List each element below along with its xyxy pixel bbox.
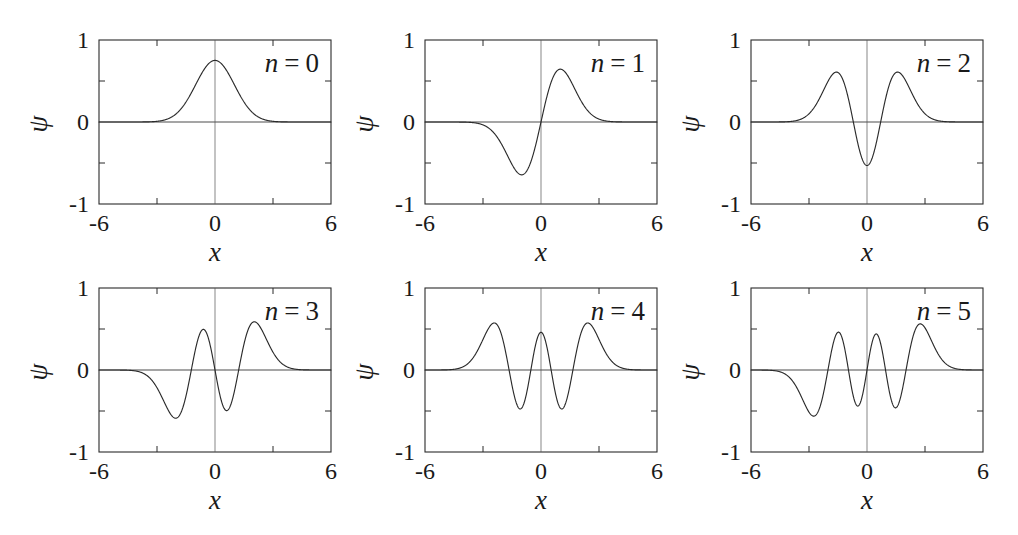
x-tick-label: 6 [977,210,989,236]
y-tick-label: 0 [403,109,415,135]
y-axis-label: ψ [675,362,705,380]
x-tick-label: -6 [741,458,761,484]
panel-label-equals: = [936,48,951,78]
y-tick-label: 1 [403,27,415,53]
panel-label-symbol: n [591,296,605,326]
x-tick-label: -6 [741,210,761,236]
y-tick-label: 1 [729,27,741,53]
panel-n-4: 10-1-606xψn=4 [326,248,666,535]
panel-quantum-number-label: n=2 [917,48,971,78]
x-axis-label: x [208,485,221,515]
y-tick-label: 1 [77,27,89,53]
plot-area-n-0: 10-1-606xψn=0 [0,0,340,287]
x-tick-label: 0 [209,210,221,236]
wavefunction-figure: 10-1-606xψn=010-1-606xψn=110-1-606xψn=21… [0,0,1018,535]
panel-n-2: 10-1-606xψn=2 [652,0,992,287]
y-tick-label: -1 [395,439,415,465]
panel-label-equals: = [284,296,299,326]
x-tick-label: 0 [861,210,873,236]
panel-label-symbol: n [917,296,931,326]
panel-label-symbol: n [265,48,279,78]
panel-label-equals: = [610,296,625,326]
plot-area-n-4: 10-1-606xψn=4 [326,248,666,535]
panel-label-value: 0 [306,48,320,78]
y-tick-label: 1 [729,275,741,301]
panel-quantum-number-label: n=3 [265,296,319,326]
y-tick-label: 0 [729,109,741,135]
panel-label-equals: = [936,296,951,326]
x-tick-label: 0 [535,458,547,484]
plot-area-n-3: 10-1-606xψn=3 [0,248,340,535]
y-tick-label: -1 [69,439,89,465]
panel-n-1: 10-1-606xψn=1 [326,0,666,287]
panel-n-5: 10-1-606xψn=5 [652,248,992,535]
y-axis-label: ψ [349,114,379,132]
y-tick-label: 0 [77,109,89,135]
y-axis-label: ψ [675,114,705,132]
plot-area-n-1: 10-1-606xψn=1 [326,0,666,287]
panel-n-3: 10-1-606xψn=3 [0,248,340,535]
x-tick-label: -6 [415,458,435,484]
panel-label-value: 1 [632,48,646,78]
y-tick-label: 0 [77,357,89,383]
panel-label-equals: = [284,48,299,78]
y-tick-label: -1 [721,439,741,465]
panel-quantum-number-label: n=1 [591,48,645,78]
y-tick-label: -1 [69,191,89,217]
panel-quantum-number-label: n=0 [265,48,319,78]
y-tick-label: 0 [403,357,415,383]
x-tick-label: -6 [89,210,109,236]
panel-label-value: 3 [306,296,320,326]
y-tick-label: -1 [395,191,415,217]
y-tick-label: 0 [729,357,741,383]
y-axis-label: ψ [349,362,379,380]
panel-label-symbol: n [265,296,279,326]
panel-n-0: 10-1-606xψn=0 [0,0,340,287]
y-tick-label: 1 [77,275,89,301]
x-tick-label: 0 [209,458,221,484]
y-axis-label: ψ [23,362,53,380]
panel-label-value: 2 [958,48,972,78]
x-tick-label: 6 [977,458,989,484]
x-axis-label: x [860,485,873,515]
y-axis-label: ψ [23,114,53,132]
panel-label-symbol: n [917,48,931,78]
panel-label-symbol: n [591,48,605,78]
panel-label-value: 4 [632,296,646,326]
y-tick-label: -1 [721,191,741,217]
panel-quantum-number-label: n=5 [917,296,971,326]
y-tick-label: 1 [403,275,415,301]
x-tick-label: -6 [415,210,435,236]
panel-label-equals: = [610,48,625,78]
plot-area-n-5: 10-1-606xψn=5 [652,248,992,535]
x-tick-label: 0 [535,210,547,236]
plot-area-n-2: 10-1-606xψn=2 [652,0,992,287]
panel-label-value: 5 [958,296,972,326]
x-axis-label: x [534,485,547,515]
x-tick-label: -6 [89,458,109,484]
x-tick-label: 0 [861,458,873,484]
panel-quantum-number-label: n=4 [591,296,646,326]
